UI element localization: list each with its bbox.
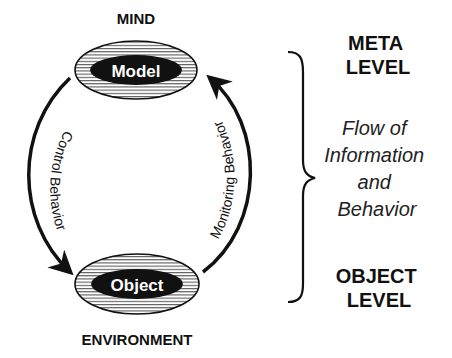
monitoring-behavior-label: Monitoring Behavior (207, 118, 238, 241)
model-node: Model (75, 41, 197, 99)
mind-caption: MIND (117, 10, 155, 27)
object-level-label: OBJECT LEVEL (336, 265, 423, 311)
meta-level-label: META LEVEL (346, 32, 410, 78)
flow-description: Flow of Information and Behavior (324, 117, 430, 220)
object-node: Object (75, 254, 199, 314)
model-label: Model (111, 62, 160, 81)
curly-brace (288, 52, 315, 302)
control-behavior-label: Control Behavior (47, 129, 76, 233)
object-label: Object (111, 276, 164, 295)
environment-caption: ENVIRONMENT (82, 331, 193, 348)
meta-level-diagram: Control Behavior Monitoring Behavior MIN… (0, 0, 452, 358)
